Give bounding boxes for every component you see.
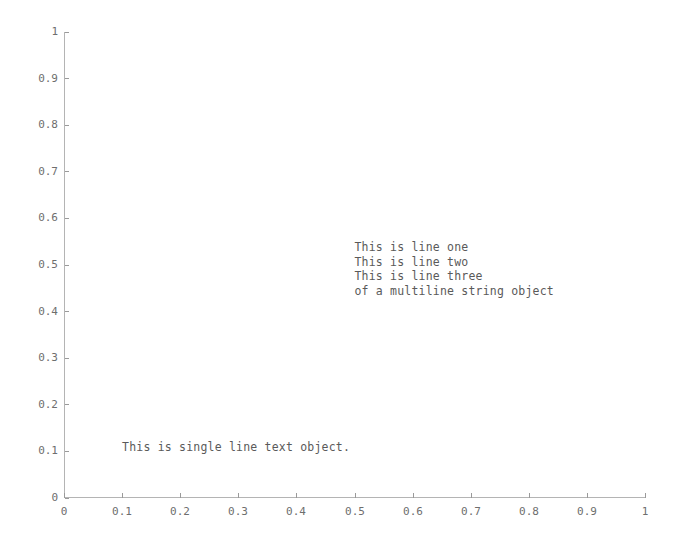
y-tick-label: 0.7 (38, 166, 58, 178)
plot-axes: This is single line text object.This is … (64, 32, 645, 498)
y-tick-label: 0.2 (38, 399, 58, 411)
x-tick-label: 0.4 (286, 506, 306, 518)
y-tick-label: 0 (51, 492, 58, 504)
y-tick-label: 0.5 (38, 259, 58, 271)
x-tick-label: 0.2 (170, 506, 190, 518)
x-axis-tick-labels: 00.10.20.30.40.50.60.70.80.91 (64, 498, 645, 522)
x-tick-label: 0.6 (403, 506, 423, 518)
x-tick-label: 0.7 (461, 506, 481, 518)
x-tick-label: 1 (642, 506, 649, 518)
y-tick-mark (65, 404, 69, 405)
x-tick-label: 0.9 (577, 506, 597, 518)
y-tick-mark (65, 78, 69, 79)
x-tick-mark (645, 493, 646, 498)
x-tick-label: 0.8 (519, 506, 539, 518)
y-tick-label: 0.1 (38, 445, 58, 457)
y-tick-mark (65, 265, 69, 266)
x-tick-label: 0 (61, 506, 68, 518)
y-tick-mark (65, 218, 69, 219)
multiline-text: This is line one This is line two This i… (355, 240, 554, 298)
single-line-text: This is single line text object. (122, 440, 350, 455)
y-tick-mark (65, 171, 69, 172)
x-tick-label: 0.1 (112, 506, 132, 518)
y-tick-mark (65, 311, 69, 312)
x-tick-label: 0.3 (228, 506, 248, 518)
x-tick-label: 0.5 (345, 506, 365, 518)
y-tick-mark (65, 32, 69, 33)
y-tick-label: 0.4 (38, 306, 58, 318)
y-tick-label: 1 (51, 26, 58, 38)
y-tick-mark (65, 125, 69, 126)
figure-canvas: This is single line text object.This is … (0, 0, 682, 543)
y-tick-label: 0.3 (38, 352, 58, 364)
y-tick-mark (65, 358, 69, 359)
y-tick-mark (65, 451, 69, 452)
y-tick-label: 0.9 (38, 73, 58, 85)
y-axis-tick-labels: 00.10.20.30.40.50.60.70.80.91 (0, 32, 58, 498)
y-tick-label: 0.6 (38, 212, 58, 224)
y-tick-label: 0.8 (38, 119, 58, 131)
